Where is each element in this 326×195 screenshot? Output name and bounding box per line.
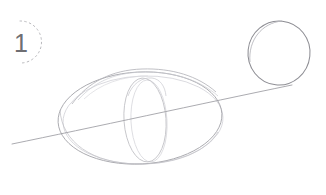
pencil-sketch-drawing: 1 — [0, 0, 326, 195]
sketch-canvas: 1 — [0, 0, 326, 195]
step-number-label: 1 — [14, 29, 28, 57]
